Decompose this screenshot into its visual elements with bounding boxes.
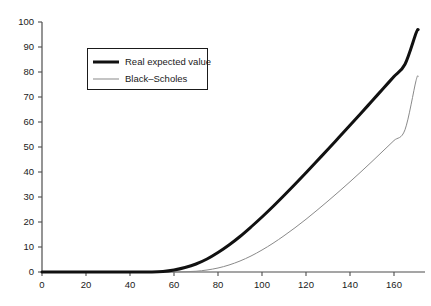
chart-container: 0102030405060708090100 02040608010012014…: [0, 0, 431, 306]
x-tick-label: 140: [330, 280, 370, 290]
y-tick-label: 100: [0, 17, 34, 27]
y-tick-label: 70: [0, 92, 34, 102]
legend-item-black-scholes: Black–Scholes: [88, 70, 207, 87]
x-tick-label: 60: [154, 280, 194, 290]
x-tick-label: 100: [242, 280, 282, 290]
legend-label: Real expected value: [125, 57, 211, 67]
x-tick-label: 80: [198, 280, 238, 290]
y-tick-label: 80: [0, 67, 34, 77]
y-tick-label: 20: [0, 217, 34, 227]
y-tick-label: 50: [0, 142, 34, 152]
y-tick-label: 90: [0, 42, 34, 52]
y-tick-label: 30: [0, 192, 34, 202]
thick-line-swatch-icon: [93, 57, 119, 67]
chart-legend: Real expected value Black–Scholes: [87, 48, 208, 90]
x-tick-label: 20: [66, 280, 106, 290]
x-tick-label: 120: [286, 280, 326, 290]
legend-label: Black–Scholes: [125, 74, 187, 84]
x-tick-label: 0: [22, 280, 62, 290]
y-tick-label: 10: [0, 242, 34, 252]
x-tick-label: 160: [374, 280, 414, 290]
y-tick-label: 0: [0, 267, 34, 277]
y-tick-label: 60: [0, 117, 34, 127]
plot-area: [0, 0, 431, 306]
thin-line-swatch-icon: [93, 74, 119, 84]
legend-item-real-expected-value: Real expected value: [88, 53, 207, 70]
y-tick-label: 40: [0, 167, 34, 177]
x-tick-label: 40: [110, 280, 150, 290]
